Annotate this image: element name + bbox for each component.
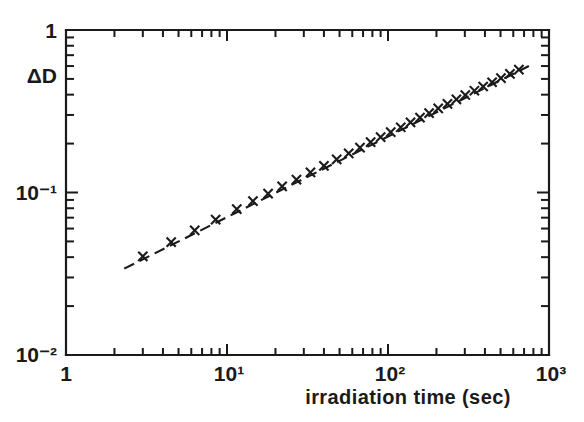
x-tick-label-10e1: 10¹ [214, 362, 244, 385]
x-tick-label-10e3: 10³ [536, 362, 566, 385]
x-tick-label-1: 1 [60, 362, 72, 385]
x-tick-label-10e2: 10² [375, 362, 405, 385]
y-axis-title: ΔD [27, 64, 57, 87]
x-axis-title: irradiation time (sec) [305, 386, 511, 408]
y-tick-label-1: 1 [45, 19, 57, 42]
y-tick-label-10e-1: 10⁻¹ [16, 181, 57, 204]
chart-background [0, 0, 584, 422]
y-tick-label-10e-2: 10⁻² [16, 343, 57, 366]
irradiation-time-vs-delta-d-chart: 1 10⁻¹ 10⁻² ΔD 1 10¹ 10² 10³ irradiation… [0, 0, 584, 422]
